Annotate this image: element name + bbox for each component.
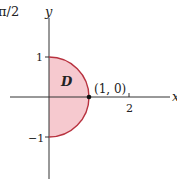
caption-fragment: π/2 [0,4,19,19]
y-axis-label: y [44,4,53,19]
x-axis-label: x [172,89,177,104]
y-tick-label-1: 1 [36,51,43,64]
point-1-0-label: (1, 0) [94,82,126,96]
point-1-0-marker [87,95,92,100]
region-d-label: D [60,74,73,89]
x-tick-label-2: 2 [126,102,133,115]
y-tick-label-neg1: −1 [28,132,44,145]
diagram-canvas: π/2 y x 1 −1 2 D (1, 0) [0,0,177,179]
